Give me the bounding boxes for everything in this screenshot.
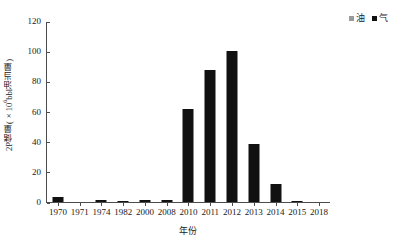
x-tick-mark <box>188 203 189 206</box>
chart-legend: 油气 <box>349 14 388 23</box>
bar-slot <box>286 22 308 202</box>
x-tick-mark <box>210 203 211 206</box>
bar[interactable] <box>139 200 150 202</box>
y-tick-label: 0 <box>37 197 42 208</box>
bar-slot <box>156 22 178 202</box>
bar-slot <box>178 22 200 202</box>
x-tick-label: 2011 <box>201 207 219 218</box>
legend-entry-oil[interactable]: 油 <box>349 14 365 23</box>
legend-label: 油 <box>356 14 365 23</box>
x-tick-mark <box>58 203 59 206</box>
x-tick-label: 2014 <box>267 207 285 218</box>
legend-swatch-icon <box>372 16 377 21</box>
bar-slot <box>265 22 287 202</box>
bar-series-group <box>47 22 330 202</box>
y-tick-label: 80 <box>32 76 41 87</box>
bar[interactable] <box>52 197 63 202</box>
bar-chart-figure: 油气 2P储量(×106bbl油当量) 020406080100120 1970… <box>0 0 396 250</box>
x-tick-label: 1971 <box>71 207 89 218</box>
bar-slot <box>91 22 113 202</box>
y-axis-title-exponent: 6 <box>2 100 8 103</box>
bar-slot <box>221 22 243 202</box>
y-tick-label: 100 <box>28 46 42 57</box>
x-tick-label: 2015 <box>288 207 306 218</box>
plot-area: 020406080100120 197019711974198220002008… <box>46 22 330 203</box>
x-tick-label: 1974 <box>92 207 110 218</box>
x-tick-mark <box>101 203 102 206</box>
bar[interactable] <box>161 200 172 202</box>
y-axis-title: 2P储量(×106bbl油当量) <box>2 59 15 151</box>
legend-swatch-icon <box>349 16 354 21</box>
y-tick-label: 120 <box>28 16 42 27</box>
x-tick-label: 2013 <box>245 207 263 218</box>
bar[interactable] <box>292 201 303 203</box>
x-tick-mark <box>254 203 255 206</box>
bar[interactable] <box>248 144 259 203</box>
x-tick-label: 1970 <box>49 207 67 218</box>
legend-label: 气 <box>379 14 388 23</box>
x-tick-mark <box>297 203 298 206</box>
legend-entry-gas[interactable]: 气 <box>372 14 388 23</box>
x-tick-label: 2018 <box>310 207 328 218</box>
x-tick-label: 2008 <box>158 207 176 218</box>
x-tick-mark <box>276 203 277 206</box>
bar[interactable] <box>205 70 216 202</box>
bar-slot <box>134 22 156 202</box>
x-tick-mark <box>232 203 233 206</box>
x-tick-label: 1982 <box>114 207 132 218</box>
bar[interactable] <box>118 201 129 202</box>
bar[interactable] <box>227 51 238 203</box>
bar[interactable] <box>96 200 107 202</box>
x-tick-mark <box>167 203 168 206</box>
bar-slot <box>47 22 69 202</box>
x-tick-label: 2000 <box>136 207 154 218</box>
y-tick-label: 40 <box>32 137 41 148</box>
bar-slot <box>69 22 91 202</box>
x-tick-mark <box>145 203 146 206</box>
y-tick-label: 20 <box>32 167 41 178</box>
x-tick-mark <box>80 203 81 206</box>
bar[interactable] <box>270 184 281 202</box>
x-tick-label: 2010 <box>179 207 197 218</box>
y-tick-label: 60 <box>32 107 41 118</box>
y-axis-title-container: 2P储量(×106bbl油当量) <box>0 0 16 210</box>
x-tick-mark <box>319 203 320 206</box>
x-tick-label: 2012 <box>223 207 241 218</box>
x-axis-title: 年份 <box>46 224 330 237</box>
x-tick-mark <box>123 203 124 206</box>
bar-slot <box>199 22 221 202</box>
bar[interactable] <box>183 109 194 202</box>
bar-slot <box>308 22 330 202</box>
bar-slot <box>112 22 134 202</box>
bar-slot <box>243 22 265 202</box>
